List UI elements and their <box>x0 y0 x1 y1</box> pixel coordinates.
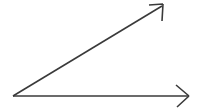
diagonal-ray-group <box>13 4 163 96</box>
angle-diagram-canvas: Angle formed by two rays <box>0 0 198 108</box>
angle-diagram-svg: Angle formed by two rays <box>0 0 198 108</box>
horizontal-ray-group <box>13 85 189 107</box>
diagonal-ray-line <box>13 6 162 96</box>
